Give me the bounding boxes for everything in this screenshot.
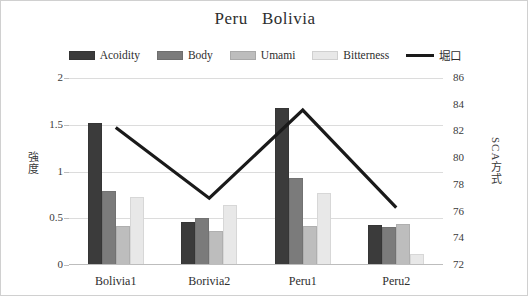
y-tick-left: 1.5 [23, 119, 63, 130]
tick-mark [64, 265, 69, 266]
bar-Body-Peru1[interactable] [289, 178, 303, 264]
legend-item-Acoidity[interactable]: Acoidity [69, 49, 140, 61]
legend-swatch-堀口 [406, 54, 434, 57]
tick-mark [64, 78, 69, 79]
bar-Acoidity-Peru2[interactable] [368, 225, 382, 264]
legend-item-Umami[interactable]: Umami [230, 49, 296, 61]
y-tick-right: 76 [453, 206, 493, 217]
plot-area [69, 78, 443, 265]
y-tick-right: 72 [453, 259, 493, 270]
bar-group-Borivia2 [163, 77, 257, 264]
legend-swatch-Acoidity [69, 51, 95, 60]
y-tick-right: 80 [453, 152, 493, 163]
y-tick-left: 1 [23, 166, 63, 177]
bar-Bitterness-Peru1[interactable] [317, 193, 331, 264]
y-tick-left: 0.5 [23, 212, 63, 223]
bar-group-Peru2 [350, 77, 444, 264]
bar-Acoidity-Borivia2[interactable] [181, 222, 195, 264]
tick-mark [64, 172, 69, 173]
bar-Body-Peru2[interactable] [382, 227, 396, 264]
bar-group-Bolivia1 [69, 77, 163, 264]
y-tick-left: 2 [23, 72, 63, 83]
y-tick-right: 74 [453, 232, 493, 243]
legend-item-Body[interactable]: Body [157, 49, 213, 61]
y-tick-right: 82 [453, 125, 493, 136]
bar-Acoidity-Peru1[interactable] [275, 108, 289, 264]
y-tick-right: 78 [453, 179, 493, 190]
chart-title: Peru Bolivia [1, 9, 528, 29]
bar-Umami-Peru1[interactable] [303, 226, 317, 264]
legend-label: Body [188, 49, 213, 61]
bar-Body-Bolivia1[interactable] [102, 191, 116, 264]
bar-Bitterness-Peru2[interactable] [410, 254, 424, 264]
legend-label: 堀口 [439, 47, 461, 63]
legend-label: Umami [261, 49, 296, 61]
legend-swatch-Bitterness [312, 51, 338, 60]
legend-swatch-Umami [230, 51, 256, 60]
legend-item-Bitterness[interactable]: Bitterness [312, 49, 389, 61]
chart-container: Peru Bolivia AcoidityBodyUmamiBitterness… [0, 0, 528, 296]
y-tick-right: 84 [453, 99, 493, 110]
bar-Body-Borivia2[interactable] [195, 218, 209, 264]
tick-mark [64, 218, 69, 219]
legend-label: Bitterness [343, 49, 389, 61]
y-tick-right: 86 [453, 72, 493, 83]
gridline [69, 264, 443, 265]
bar-Acoidity-Bolivia1[interactable] [88, 123, 102, 264]
tick-mark [64, 125, 69, 126]
legend-swatch-Body [157, 51, 183, 60]
bar-Bitterness-Bolivia1[interactable] [130, 197, 144, 264]
chart-legend: AcoidityBodyUmamiBitterness堀口 [1, 47, 528, 63]
x-axis-label-Peru2: Peru2 [336, 274, 456, 289]
y-tick-left: 0 [23, 259, 63, 270]
bar-Bitterness-Borivia2[interactable] [223, 205, 237, 264]
legend-item-堀口[interactable]: 堀口 [406, 47, 461, 63]
bar-Umami-Bolivia1[interactable] [116, 226, 130, 264]
bar-Umami-Borivia2[interactable] [209, 231, 223, 264]
bar-group-Peru1 [256, 77, 350, 264]
legend-label: Acoidity [100, 49, 140, 61]
bar-Umami-Peru2[interactable] [396, 224, 410, 264]
